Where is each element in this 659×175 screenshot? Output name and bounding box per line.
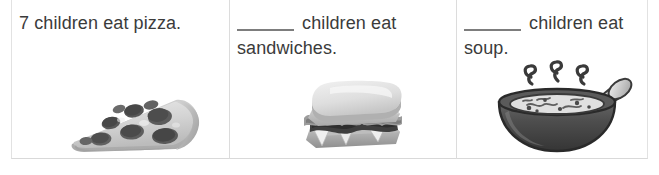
soup-bowl-image bbox=[493, 56, 643, 157]
table-cell-sandwiches: children eat sandwiches. bbox=[230, 0, 456, 159]
worksheet-table: 7 children eat pizza. bbox=[11, 0, 648, 159]
sentence-sandwiches: children eat sandwiches. bbox=[237, 11, 452, 61]
sentence-number-pizza: 7 bbox=[19, 13, 29, 33]
sandwich-image bbox=[296, 80, 414, 159]
pizza-slice-image bbox=[64, 92, 209, 158]
sentence-text-pizza: children eat pizza. bbox=[29, 13, 181, 33]
sentence-text-sandwiches: children eat sandwiches. bbox=[237, 13, 396, 58]
sentence-pizza: 7 children eat pizza. bbox=[19, 11, 224, 36]
answer-blank-sandwiches[interactable] bbox=[237, 29, 294, 31]
sentence-soup: children eat soup. bbox=[464, 11, 649, 61]
table-cell-soup: children eat soup. bbox=[457, 0, 649, 159]
sentence-text-soup: children eat soup. bbox=[464, 13, 623, 58]
worksheet-page: 7 children eat pizza. bbox=[0, 0, 659, 175]
answer-blank-soup[interactable] bbox=[464, 29, 521, 31]
table-cell-pizza: 7 children eat pizza. bbox=[12, 0, 229, 159]
